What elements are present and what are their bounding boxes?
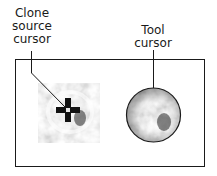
tool-cursor-circle: [126, 88, 181, 143]
diagram-canvas: [0, 0, 217, 176]
